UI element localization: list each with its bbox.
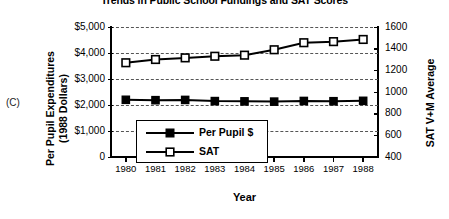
series-sat (122, 36, 367, 67)
data-point-marker (152, 56, 160, 64)
x-axis-tick (362, 157, 364, 162)
left-axis-tick-label: $2,000 (53, 99, 105, 110)
data-point-marker (181, 54, 189, 62)
legend-swatch (144, 123, 196, 143)
legend-item: SAT (137, 142, 269, 162)
chart-figure: Trends in Public School Fundings and SAT… (0, 0, 449, 219)
right-axis-tick-label: 800 (385, 107, 431, 118)
x-axis-title: Year (111, 191, 378, 203)
data-point-marker (241, 98, 248, 105)
legend-marker-icon (144, 123, 196, 143)
right-axis-tick-label: 1200 (385, 64, 431, 75)
legend-swatch (144, 142, 196, 162)
data-point-marker (211, 98, 218, 105)
x-axis-tick (333, 157, 335, 162)
data-point-marker (330, 98, 337, 105)
right-axis-tick-label: 1600 (385, 21, 431, 32)
x-axis-tick (303, 157, 305, 162)
data-point-marker (211, 52, 219, 60)
data-point-marker (122, 96, 129, 103)
left-axis-tick-label: $4,000 (53, 47, 105, 58)
series-per-pupil (122, 96, 367, 105)
right-axis-tick-label: 600 (385, 129, 431, 140)
data-point-marker (359, 36, 367, 44)
legend-label: SAT (199, 145, 219, 157)
right-axis-tick-label: 400 (385, 151, 431, 162)
left-axis-tick-label: $3,000 (53, 73, 105, 84)
data-point-marker (241, 51, 249, 59)
data-point-marker (360, 97, 367, 104)
left-axis-tick-label: $1,000 (53, 125, 105, 136)
left-axis-tick-label: 0 (53, 151, 105, 162)
data-point-marker (271, 98, 278, 105)
data-point-marker (270, 46, 278, 54)
chart-legend: Per Pupil $SAT (136, 120, 268, 163)
legend-marker-icon (144, 142, 196, 162)
chart-title: Trends in Public School Fundings and SAT… (0, 0, 449, 6)
left-axis-tick-label: $5,000 (53, 21, 105, 32)
data-point-marker (330, 38, 338, 46)
x-axis-tick-label: 1988 (346, 163, 380, 174)
legend-item: Per Pupil $ (137, 123, 269, 143)
right-axis-tick-label: 1000 (385, 86, 431, 97)
data-point-marker (122, 59, 130, 67)
x-axis-tick (125, 157, 127, 162)
data-point-marker (182, 96, 189, 103)
legend-label: Per Pupil $ (199, 126, 253, 138)
data-point-marker (300, 97, 307, 104)
x-axis-tick (273, 157, 275, 162)
data-point-marker (152, 97, 159, 104)
panel-label: (C) (6, 97, 20, 108)
right-axis-tick-label: 1400 (385, 42, 431, 53)
data-point-marker (300, 39, 308, 47)
